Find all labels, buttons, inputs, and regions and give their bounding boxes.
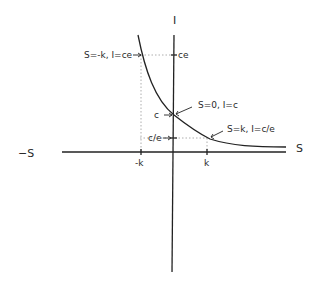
negative-s-axis-label: −S: [18, 147, 34, 160]
tick-label-c-over-e: c/e: [148, 133, 162, 143]
arrow-ce-point: [133, 53, 141, 57]
annotation-zero: S=0, I=c: [198, 100, 238, 110]
arrow-k-point: [211, 131, 223, 139]
i-axis-label: I: [173, 14, 176, 27]
tick-label-ce: ce: [178, 50, 189, 60]
tick-label-k: k: [204, 158, 210, 168]
annotation-k: S=k, I=c/e: [227, 124, 275, 134]
s-axis-label: S: [296, 142, 303, 155]
exponential-diagram: I S −S -k k ce c c/e S=-k, I=ce S=0, I=c…: [0, 0, 320, 286]
arrow-c-over-e-label: [163, 136, 171, 140]
arrow-c-label: [164, 113, 172, 117]
tick-label-c: c: [154, 110, 159, 120]
i-axis: [172, 35, 174, 272]
arrow-c-point: [176, 107, 192, 116]
annotation-minus-k: S=-k, I=ce: [84, 50, 133, 60]
tick-label-minus-k: -k: [135, 158, 144, 168]
